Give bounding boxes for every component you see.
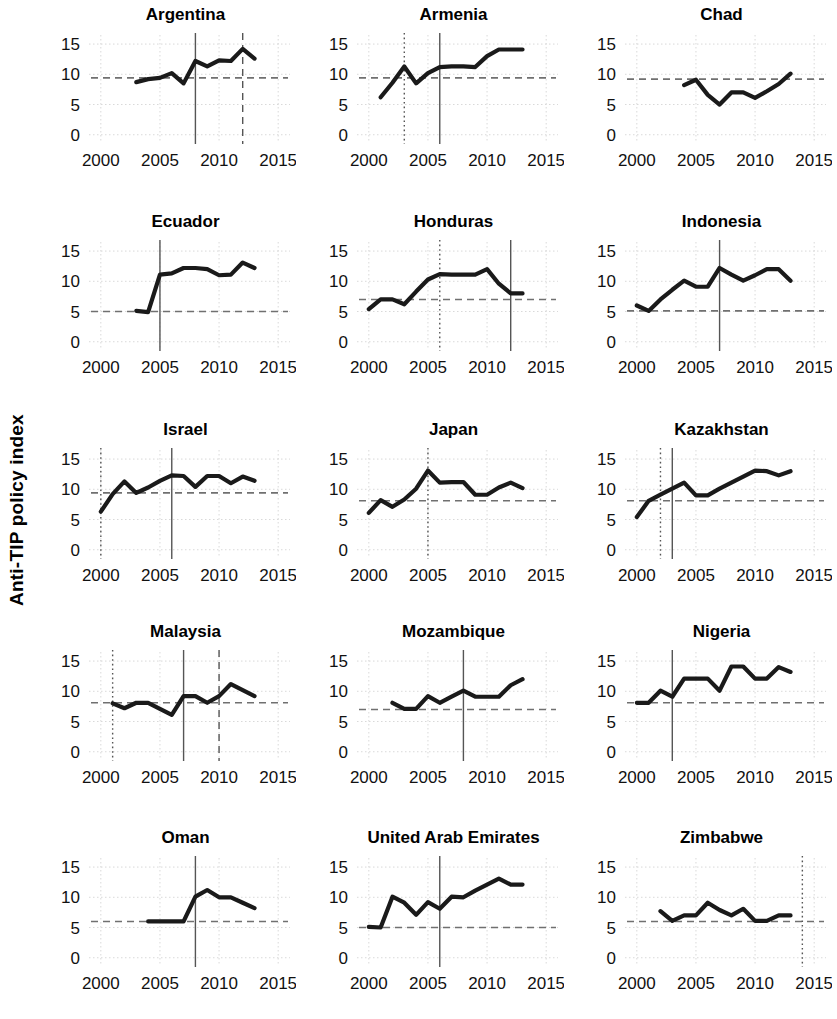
- svg-text:2005: 2005: [677, 566, 715, 585]
- svg-text:5: 5: [339, 96, 348, 115]
- svg-text:2015: 2015: [259, 768, 296, 787]
- panel-plot: 0510152000200520102015: [302, 644, 564, 794]
- panel-plot: 0510152000200520102015: [302, 234, 564, 384]
- svg-text:2010: 2010: [736, 974, 774, 993]
- panel-title: Mozambique: [302, 622, 558, 642]
- svg-text:5: 5: [71, 511, 80, 530]
- panel-title: Malaysia: [34, 622, 290, 642]
- svg-text:2010: 2010: [200, 566, 238, 585]
- svg-text:0: 0: [71, 541, 80, 560]
- svg-text:5: 5: [607, 919, 616, 938]
- svg-text:2000: 2000: [350, 151, 388, 170]
- svg-text:2015: 2015: [527, 768, 564, 787]
- figure-root: Anti-TIP policy index Argentina051015200…: [0, 0, 837, 1019]
- svg-text:2015: 2015: [795, 151, 832, 170]
- panel-plot: 0510152000200520102015: [302, 27, 564, 177]
- panel-zimbabwe: Zimbabwe0510152000200520102015: [570, 828, 837, 1019]
- svg-text:5: 5: [339, 511, 348, 530]
- svg-text:15: 15: [61, 242, 80, 261]
- svg-text:10: 10: [61, 272, 80, 291]
- svg-text:0: 0: [607, 333, 616, 352]
- svg-text:2005: 2005: [141, 974, 179, 993]
- svg-text:10: 10: [597, 272, 616, 291]
- panel-plot: 0510152000200520102015: [302, 850, 564, 1000]
- svg-text:2005: 2005: [409, 358, 447, 377]
- svg-text:2015: 2015: [795, 566, 832, 585]
- panel-plot: 0510152000200520102015: [34, 850, 296, 1000]
- svg-text:2015: 2015: [795, 768, 832, 787]
- panel-title: Zimbabwe: [570, 828, 826, 848]
- svg-text:0: 0: [71, 333, 80, 352]
- svg-text:2005: 2005: [141, 151, 179, 170]
- panel-plot: 0510152000200520102015: [570, 644, 832, 794]
- svg-text:0: 0: [607, 949, 616, 968]
- panel-title: Chad: [570, 5, 826, 25]
- svg-text:2005: 2005: [141, 566, 179, 585]
- panel-plot: 0510152000200520102015: [34, 442, 296, 592]
- svg-text:2010: 2010: [736, 151, 774, 170]
- svg-text:2010: 2010: [468, 768, 506, 787]
- svg-text:2015: 2015: [795, 974, 832, 993]
- svg-text:2005: 2005: [409, 151, 447, 170]
- svg-text:0: 0: [339, 333, 348, 352]
- svg-text:2000: 2000: [82, 768, 120, 787]
- svg-text:5: 5: [607, 713, 616, 732]
- y-axis-label-text: Anti-TIP policy index: [6, 414, 28, 606]
- svg-text:5: 5: [339, 713, 348, 732]
- svg-text:5: 5: [607, 511, 616, 530]
- svg-text:15: 15: [61, 35, 80, 54]
- svg-text:15: 15: [329, 35, 348, 54]
- svg-text:2010: 2010: [468, 566, 506, 585]
- svg-text:0: 0: [339, 541, 348, 560]
- svg-text:0: 0: [71, 126, 80, 145]
- svg-text:5: 5: [71, 919, 80, 938]
- svg-text:2005: 2005: [677, 768, 715, 787]
- panel-title: Israel: [34, 420, 290, 440]
- svg-text:2010: 2010: [468, 358, 506, 377]
- svg-text:15: 15: [329, 652, 348, 671]
- svg-text:10: 10: [329, 65, 348, 84]
- panel-title: United Arab Emirates: [302, 828, 558, 848]
- svg-text:2000: 2000: [618, 358, 656, 377]
- svg-text:2005: 2005: [677, 358, 715, 377]
- svg-text:2015: 2015: [795, 358, 832, 377]
- svg-text:10: 10: [597, 480, 616, 499]
- svg-text:15: 15: [61, 652, 80, 671]
- svg-text:15: 15: [597, 652, 616, 671]
- panel-united-arab-emirates: United Arab Emirates05101520002005201020…: [302, 828, 570, 1019]
- svg-text:2005: 2005: [409, 768, 447, 787]
- svg-text:10: 10: [329, 682, 348, 701]
- svg-text:2000: 2000: [82, 358, 120, 377]
- svg-text:15: 15: [329, 242, 348, 261]
- svg-text:2010: 2010: [736, 358, 774, 377]
- svg-text:15: 15: [61, 450, 80, 469]
- svg-text:0: 0: [339, 126, 348, 145]
- svg-text:10: 10: [329, 272, 348, 291]
- svg-text:5: 5: [71, 713, 80, 732]
- panel-plot: 0510152000200520102015: [570, 442, 832, 592]
- svg-text:2000: 2000: [618, 768, 656, 787]
- panel-ecuador: Ecuador0510152000200520102015: [34, 212, 302, 416]
- svg-text:2015: 2015: [527, 566, 564, 585]
- svg-text:0: 0: [607, 126, 616, 145]
- svg-text:0: 0: [607, 743, 616, 762]
- svg-text:2015: 2015: [527, 974, 564, 993]
- svg-text:5: 5: [71, 303, 80, 322]
- panel-armenia: Armenia0510152000200520102015: [302, 5, 570, 209]
- svg-text:0: 0: [71, 743, 80, 762]
- svg-text:2010: 2010: [200, 768, 238, 787]
- panel-title: Argentina: [34, 5, 290, 25]
- panel-plot: 0510152000200520102015: [570, 850, 832, 1000]
- svg-text:2005: 2005: [409, 974, 447, 993]
- svg-text:15: 15: [61, 858, 80, 877]
- panel-title: Nigeria: [570, 622, 826, 642]
- svg-text:0: 0: [339, 949, 348, 968]
- panel-japan: Japan0510152000200520102015: [302, 420, 570, 624]
- svg-text:2000: 2000: [350, 566, 388, 585]
- svg-text:0: 0: [71, 949, 80, 968]
- svg-text:15: 15: [597, 858, 616, 877]
- svg-text:2010: 2010: [736, 768, 774, 787]
- y-axis-label: Anti-TIP policy index: [0, 0, 34, 1019]
- svg-text:2000: 2000: [618, 974, 656, 993]
- svg-text:2015: 2015: [527, 151, 564, 170]
